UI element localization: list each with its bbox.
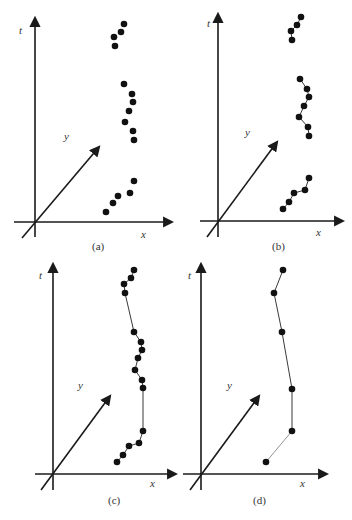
trajectory-point: [130, 99, 137, 106]
trajectory-point: [289, 37, 296, 44]
panel-caption: (b): [272, 240, 285, 253]
trajectory-point: [131, 178, 138, 185]
trajectory-point: [118, 29, 125, 36]
panel-d: t y x (d): [183, 264, 327, 507]
trajectory-point: [111, 34, 118, 41]
trajectory-point: [110, 200, 117, 207]
trajectory-point: [127, 190, 134, 197]
trajectory-point: [306, 94, 313, 101]
trajectory-point: [128, 275, 135, 282]
trajectory-point: [139, 347, 146, 354]
trajectory-point: [103, 209, 110, 216]
y-axis: [41, 396, 110, 490]
trajectory-point: [280, 206, 287, 213]
trajectory-points: [263, 267, 296, 466]
t-axis-label: t: [19, 24, 23, 36]
trajectory-point: [271, 290, 278, 297]
trajectory-point: [286, 199, 293, 206]
trajectory-point: [138, 339, 145, 346]
trajectory-point: [126, 443, 133, 450]
trajectory-point: [301, 103, 308, 110]
panel-c: t y x (c): [35, 264, 176, 507]
trajectory-point: [139, 377, 146, 384]
panel-caption: (d): [253, 494, 266, 507]
y-axis-label: y: [226, 379, 232, 391]
trajectory-segment: [266, 431, 292, 462]
trajectory-point: [306, 133, 313, 140]
trajectory-point: [288, 28, 295, 35]
t-axis-label: t: [207, 17, 211, 29]
trajectory-point: [135, 355, 142, 362]
trajectory-segment: [125, 293, 134, 332]
trajectory-point: [121, 81, 128, 88]
trajectory-point: [289, 386, 296, 393]
trajectory-point: [140, 385, 147, 392]
trajectory-point: [120, 452, 127, 459]
trajectory-point: [291, 190, 298, 197]
trajectory-point: [305, 124, 312, 131]
trajectory-point: [114, 459, 121, 466]
trajectory-point: [304, 86, 311, 93]
four-panel-trajectory-figure: t y x (a) t y x (b) t y x (c) t y x (d): [0, 0, 352, 520]
trajectory-point: [112, 43, 119, 50]
trajectory-point: [115, 193, 122, 200]
trajectory-point: [298, 14, 305, 21]
panel-caption: (c): [108, 494, 121, 507]
trajectory-point: [131, 267, 138, 274]
trajectory-point: [294, 22, 301, 29]
trajectory-points: [103, 21, 138, 216]
trajectory-point: [136, 440, 143, 447]
x-axis-label: x: [299, 477, 305, 489]
trajectory-point: [297, 76, 304, 83]
panel-caption: (a): [92, 240, 105, 253]
trajectory-point: [279, 329, 286, 336]
trajectory-point: [302, 187, 309, 194]
trajectory-segment: [282, 332, 292, 389]
trajectory-point: [296, 114, 303, 121]
trajectory-point: [140, 428, 147, 435]
trajectory-point: [129, 91, 136, 98]
x-axis-label: x: [315, 226, 321, 238]
trajectory-point: [280, 267, 287, 274]
y-axis-label: y: [244, 126, 250, 138]
trajectory-point: [130, 128, 137, 135]
trajectory-point: [121, 281, 128, 288]
trajectory-point: [131, 137, 138, 144]
trajectory-point: [263, 459, 270, 466]
trajectory-point: [126, 108, 133, 115]
trajectory-segments: [283, 17, 309, 209]
y-axis: [22, 147, 99, 238]
trajectory-point: [121, 21, 128, 28]
trajectory-segments: [266, 270, 292, 462]
trajectory-segments: [117, 270, 143, 462]
x-axis-label: x: [140, 228, 146, 240]
panel-b: t y x (b): [200, 14, 343, 253]
trajectory-point: [289, 428, 296, 435]
trajectory-point: [132, 367, 139, 374]
panel-a: t y x (a): [14, 18, 172, 253]
trajectory-point: [131, 329, 138, 336]
trajectory-segment: [274, 293, 282, 332]
y-axis-label: y: [63, 130, 69, 142]
t-axis-label: t: [39, 269, 43, 281]
t-axis-label: t: [188, 269, 192, 281]
trajectory-point: [122, 290, 129, 297]
trajectory-point: [306, 175, 313, 182]
trajectory-point: [122, 119, 129, 126]
x-axis-label: x: [149, 477, 155, 489]
trajectory-segment: [274, 270, 283, 293]
y-axis-label: y: [77, 379, 83, 391]
